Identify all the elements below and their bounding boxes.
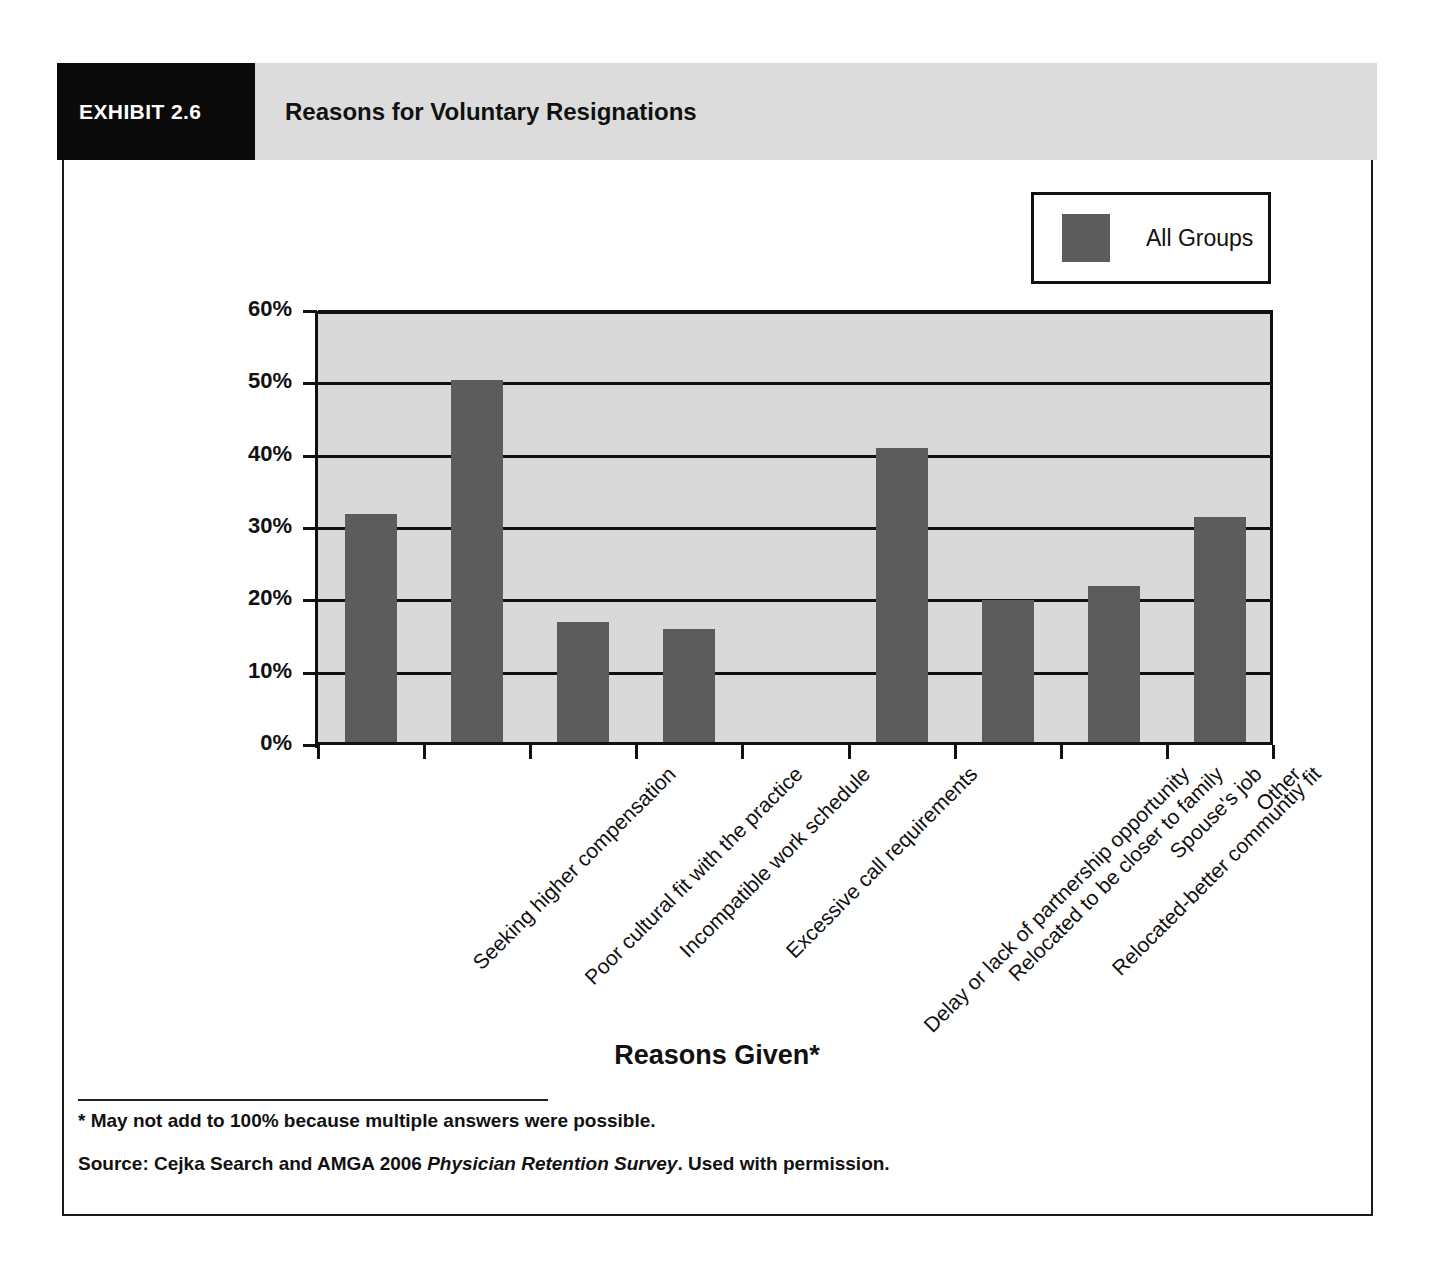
x-axis-tick <box>529 745 532 759</box>
bar <box>876 448 928 745</box>
source-prefix: Source: Cejka Search and AMGA 2006 <box>78 1153 427 1174</box>
bar <box>451 380 503 745</box>
bar <box>663 629 715 745</box>
x-axis-tick <box>848 745 851 759</box>
x-axis-tick <box>1060 745 1063 759</box>
x-axis-tick <box>1272 745 1275 759</box>
x-axis-tick <box>741 745 744 759</box>
exhibit-number-label: EXHIBIT 2.6 <box>79 100 201 124</box>
y-axis-tick-label: 20% <box>200 585 292 611</box>
x-axis-tick <box>1166 745 1169 759</box>
y-axis-tick <box>303 672 317 675</box>
bar <box>1194 517 1246 745</box>
y-axis-tick-label: 50% <box>200 368 292 394</box>
y-axis-tick-label: 0% <box>200 730 292 756</box>
bar <box>557 622 609 745</box>
exhibit-title: Reasons for Voluntary Resignations <box>285 98 697 126</box>
y-axis-tick <box>303 455 317 458</box>
y-axis-tick <box>303 382 317 385</box>
y-axis-tick-label: 40% <box>200 441 292 467</box>
y-axis-tick-label: 30% <box>200 513 292 539</box>
plot-area-wrapper <box>318 311 1273 745</box>
chart-legend: All Groups <box>1031 192 1271 284</box>
legend-label-all-groups: All Groups <box>1146 225 1253 252</box>
footnote-asterisk-note: * May not add to 100% because multiple a… <box>78 1110 656 1132</box>
legend-swatch-all-groups <box>1062 214 1110 262</box>
exhibit-number-box: EXHIBIT 2.6 <box>57 63 255 160</box>
y-axis-tick-label: 60% <box>200 296 292 322</box>
y-axis-tick <box>303 310 317 313</box>
bar <box>345 514 397 745</box>
y-axis-tick <box>303 527 317 530</box>
exhibit-title-banner: Reasons for Voluntary Resignations <box>255 63 1377 160</box>
source-suffix: . Used with permission. <box>677 1153 889 1174</box>
x-axis-line <box>315 742 1273 745</box>
x-axis-tick <box>635 745 638 759</box>
gridline <box>318 310 1273 313</box>
x-axis-title: Reasons Given* <box>0 1040 1434 1071</box>
y-axis-tick <box>303 599 317 602</box>
exhibit-header: EXHIBIT 2.6 Reasons for Voluntary Resign… <box>57 63 1377 160</box>
y-axis-tick <box>303 744 317 747</box>
x-axis-tick <box>954 745 957 759</box>
y-axis-tick-label: 10% <box>200 658 292 684</box>
x-axis-tick <box>423 745 426 759</box>
bar <box>982 600 1034 745</box>
x-axis-tick <box>317 745 320 759</box>
source-title-italic: Physician Retention Survey <box>427 1153 677 1174</box>
source-note: Source: Cejka Search and AMGA 2006 Physi… <box>78 1153 890 1175</box>
bar <box>1088 586 1140 745</box>
footnote-rule <box>78 1099 548 1101</box>
